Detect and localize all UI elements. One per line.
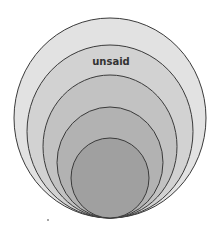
circles-group — [14, 18, 206, 218]
nested-circles-diagram: unsaid — [0, 0, 224, 236]
labels-group: unsaid — [92, 56, 130, 67]
artifact-dot — [47, 219, 49, 221]
label-unsaid: unsaid — [92, 56, 130, 67]
circle-5 — [71, 138, 149, 218]
